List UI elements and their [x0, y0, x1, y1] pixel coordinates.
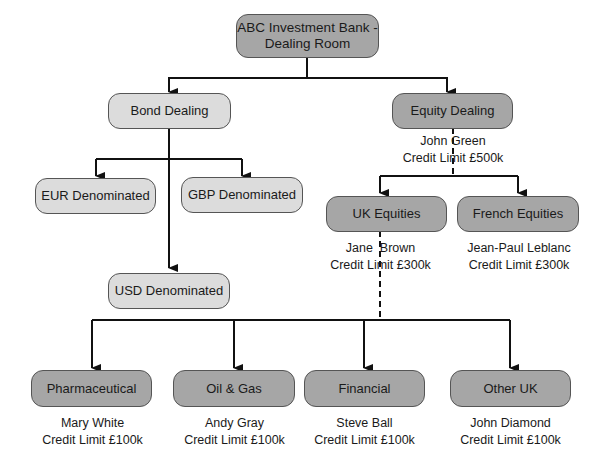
french-equities-label: French Equities [473, 206, 563, 222]
credit-limit: Credit Limit £500k [393, 150, 513, 167]
sector-manager-oil-gas: Andy Gray Credit Limit £100k [172, 415, 297, 449]
manager-name: Andy Gray [172, 415, 297, 432]
credit-limit: Credit Limit £100k [30, 432, 155, 449]
gbp-denominated-node[interactable]: GBP Denominated [181, 177, 303, 213]
sector-node-financial[interactable]: Financial [304, 370, 425, 407]
bond-dealing-node[interactable]: Bond Dealing [108, 93, 231, 129]
sector-node-other-uk[interactable]: Other UK [450, 370, 571, 407]
uk-equities-label: UK Equities [353, 206, 421, 222]
sector-label: Financial [338, 381, 390, 397]
equity-dealing-manager: John Green Credit Limit £500k [393, 133, 513, 167]
manager-name: John Green [393, 133, 513, 150]
manager-name: Jean-Paul Leblanc [460, 240, 578, 257]
sector-node-pharmaceutical[interactable]: Pharmaceutical [31, 370, 152, 407]
manager-name: John Diamond [448, 415, 573, 432]
root-node[interactable]: ABC Investment Bank - Dealing Room [236, 14, 379, 58]
sector-label: Oil & Gas [206, 381, 262, 397]
credit-limit: Credit Limit £100k [172, 432, 297, 449]
eur-denominated-node[interactable]: EUR Denominated [35, 178, 156, 214]
root-title-line2: Dealing Room [265, 36, 351, 52]
credit-limit: Credit Limit £300k [460, 257, 578, 274]
usd-denominated-label: USD Denominated [115, 283, 223, 299]
equity-dealing-label: Equity Dealing [411, 103, 495, 119]
root-title-line1: ABC Investment Bank - [237, 20, 377, 36]
gbp-denominated-label: GBP Denominated [188, 187, 296, 203]
sector-manager-other-uk: John Diamond Credit Limit £100k [448, 415, 573, 449]
manager-name: Mary White [30, 415, 155, 432]
uk-equities-node[interactable]: UK Equities [326, 196, 447, 232]
sector-node-oil-gas[interactable]: Oil & Gas [173, 370, 295, 407]
french-equities-manager: Jean-Paul Leblanc Credit Limit £300k [460, 240, 578, 274]
sector-manager-financial: Steve Ball Credit Limit £100k [302, 415, 427, 449]
bond-dealing-label: Bond Dealing [130, 103, 208, 119]
credit-limit: Credit Limit £100k [302, 432, 427, 449]
sector-manager-pharmaceutical: Mary White Credit Limit £100k [30, 415, 155, 449]
sector-label: Other UK [483, 381, 537, 397]
credit-limit: Credit Limit £100k [448, 432, 573, 449]
manager-name: Jane Brown [323, 240, 438, 257]
uk-equities-manager: Jane Brown Credit Limit £300k [323, 240, 438, 274]
credit-limit: Credit Limit £300k [323, 257, 438, 274]
french-equities-node[interactable]: French Equities [457, 196, 579, 232]
equity-dealing-node[interactable]: Equity Dealing [392, 93, 513, 129]
eur-denominated-label: EUR Denominated [41, 188, 149, 204]
manager-name: Steve Ball [302, 415, 427, 432]
usd-denominated-node[interactable]: USD Denominated [108, 273, 230, 309]
sector-label: Pharmaceutical [47, 381, 137, 397]
